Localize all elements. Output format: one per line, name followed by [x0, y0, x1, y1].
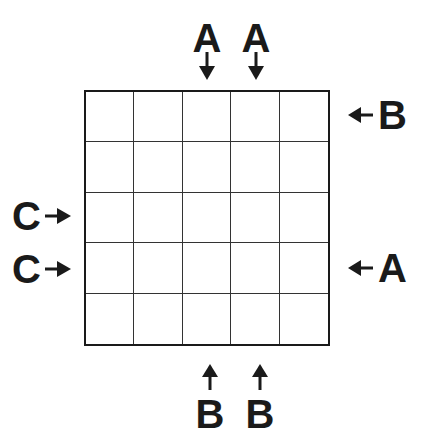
bottom-clue-col-3: B	[190, 364, 230, 428]
down-arrow-icon	[248, 52, 264, 80]
right-clue-row-4: A	[348, 248, 407, 288]
clue-letter: B	[246, 394, 275, 428]
grid-cell-r4-c5[interactable]	[280, 243, 328, 293]
grid-cell-r3-c4[interactable]	[231, 193, 279, 243]
grid-cell-r1-c1[interactable]	[86, 92, 134, 142]
clue-letter: B	[196, 394, 225, 428]
grid-cell-r3-c2[interactable]	[134, 193, 182, 243]
clue-letter: C	[12, 196, 41, 236]
up-arrow-icon	[202, 364, 218, 390]
left-clue-row-3: C	[12, 196, 71, 236]
puzzle-grid	[84, 90, 330, 346]
grid-cell-r4-c3[interactable]	[183, 243, 231, 293]
grid-cell-r4-c1[interactable]	[86, 243, 134, 293]
clue-letter: A	[242, 18, 271, 52]
grid-cell-r2-c5[interactable]	[280, 142, 328, 192]
down-arrow-icon	[199, 52, 215, 80]
left-arrow-icon	[348, 107, 374, 123]
grid-cell-r2-c3[interactable]	[183, 142, 231, 192]
grid-cell-r2-c4[interactable]	[231, 142, 279, 192]
grid-cell-r5-c2[interactable]	[134, 294, 182, 344]
grid-cell-r3-c5[interactable]	[280, 193, 328, 243]
grid-cell-r5-c1[interactable]	[86, 294, 134, 344]
grid-cell-r4-c4[interactable]	[231, 243, 279, 293]
clue-letter: A	[378, 248, 407, 288]
grid-cell-r3-c3[interactable]	[183, 193, 231, 243]
grid-cell-r1-c2[interactable]	[134, 92, 182, 142]
grid-cell-r5-c4[interactable]	[231, 294, 279, 344]
grid-cell-r3-c1[interactable]	[86, 193, 134, 243]
grid-cell-r2-c1[interactable]	[86, 142, 134, 192]
grid-cell-r2-c2[interactable]	[134, 142, 182, 192]
right-arrow-icon	[45, 208, 71, 224]
grid-cell-r1-c4[interactable]	[231, 92, 279, 142]
right-clue-row-1: B	[348, 95, 407, 135]
left-arrow-icon	[348, 260, 374, 276]
clue-letter: B	[378, 95, 407, 135]
grid-cell-r5-c3[interactable]	[183, 294, 231, 344]
left-clue-row-4: C	[12, 249, 71, 289]
up-arrow-icon	[252, 364, 268, 390]
right-arrow-icon	[45, 261, 71, 277]
letter-placement-puzzle: A A B A C C	[0, 0, 426, 440]
grid-cell-r1-c3[interactable]	[183, 92, 231, 142]
bottom-clue-col-4: B	[240, 364, 280, 428]
grid-cell-r1-c5[interactable]	[280, 92, 328, 142]
top-clue-col-3: A	[187, 18, 227, 80]
grid-cell-r5-c5[interactable]	[280, 294, 328, 344]
clue-letter: A	[193, 18, 222, 52]
clue-letter: C	[12, 249, 41, 289]
grid-cell-r4-c2[interactable]	[134, 243, 182, 293]
top-clue-col-4: A	[236, 18, 276, 80]
